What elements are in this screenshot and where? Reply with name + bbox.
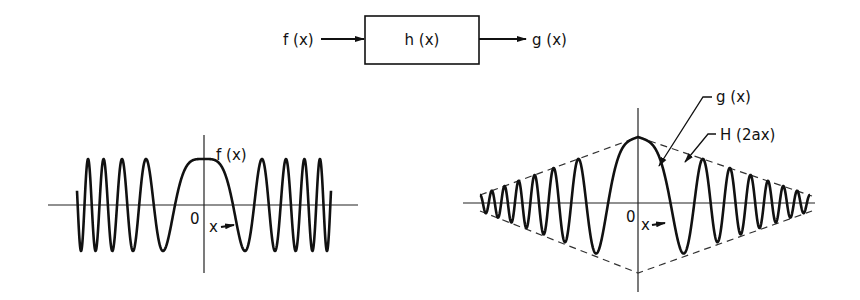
origin-label: 0 xyxy=(190,210,200,228)
origin-label: 0 xyxy=(626,208,636,226)
input-label: f (x) xyxy=(283,31,314,49)
right-plot: 0 x g (x) H (2ax) xyxy=(463,88,815,292)
g-curve-label: g (x) xyxy=(716,88,751,106)
system-label: h (x) xyxy=(405,31,440,49)
x-label: x xyxy=(209,218,218,236)
output-label: g (x) xyxy=(532,31,567,49)
g-curve xyxy=(480,137,810,254)
x-arrow-icon xyxy=(221,225,234,227)
envelope-label: H (2ax) xyxy=(720,126,775,144)
figure-canvas: f (x) h (x) g (x) f (x) 0 x 0 x g (x) H … xyxy=(0,0,860,300)
f-curve-label: f (x) xyxy=(216,146,247,164)
g-leader-arrow-icon xyxy=(659,97,712,166)
left-plot: f (x) 0 x xyxy=(48,135,358,273)
x-label: x xyxy=(641,216,650,234)
x-arrow-icon xyxy=(652,223,665,225)
block-diagram: f (x) h (x) g (x) xyxy=(283,16,567,64)
envelope-upper xyxy=(480,137,812,196)
